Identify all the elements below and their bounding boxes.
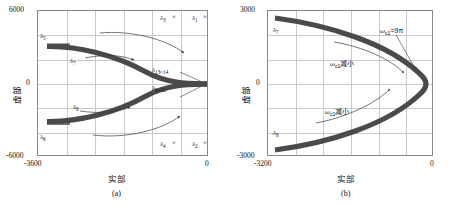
label-lambda-3: λ3 bbox=[160, 14, 166, 23]
ytick-label: 3000 bbox=[240, 5, 255, 14]
xtick-label: -3200 bbox=[254, 159, 272, 168]
xaxis-title-a: 实部 bbox=[108, 172, 126, 184]
eigen-marker-cross: × bbox=[172, 13, 176, 21]
ytick-label: -3000 bbox=[237, 151, 255, 160]
panel-caption-a: (a) bbox=[112, 189, 121, 198]
gridline-h bbox=[38, 35, 207, 36]
label-lambda-9-12: λ9~12 bbox=[152, 84, 166, 93]
ytick-label: 0 bbox=[26, 78, 30, 87]
panel-a: 6000 0 -6000 -3600 0 虚部 实部 (a) λ5 λ7 λ8 … bbox=[0, 0, 226, 206]
plot-area-a bbox=[37, 10, 208, 156]
gridline-h bbox=[38, 108, 207, 109]
gridline-h bbox=[38, 84, 207, 85]
label-lambda-4: λ4 bbox=[160, 140, 166, 149]
gridline-h bbox=[38, 60, 207, 61]
gridlines-b bbox=[268, 11, 432, 155]
ytick-label: 6000 bbox=[9, 5, 24, 14]
yaxis-title-b: 虚部 bbox=[239, 86, 251, 104]
label-lambda-5: λ5 bbox=[40, 32, 46, 41]
eigen-marker-cross: × bbox=[203, 13, 207, 21]
gridline-h bbox=[38, 133, 207, 134]
label-lambda-7: λ7 bbox=[273, 26, 279, 35]
xaxis-title-b: 实部 bbox=[337, 172, 355, 184]
label-lambda-6: λ6 bbox=[40, 133, 46, 142]
label-lambda-7: λ7 bbox=[70, 57, 76, 66]
yaxis-title-a: 虚部 bbox=[10, 86, 22, 104]
label-lambda-8: λ8 bbox=[73, 103, 79, 112]
annotation-omega-c1-decrease-lower: ωc1减小 bbox=[325, 106, 349, 117]
xtick-label: 0 bbox=[205, 159, 209, 168]
ytick-label: -6000 bbox=[6, 151, 24, 160]
gridline-h bbox=[268, 35, 432, 36]
eigen-marker-cross: × bbox=[172, 139, 176, 147]
plot-area-b bbox=[267, 10, 433, 156]
label-lambda-1: λ1 bbox=[192, 14, 198, 23]
annotation-omega-c1-equals-9pi: ωc1=9π bbox=[380, 27, 403, 36]
figure-root-locus-pair: 6000 0 -6000 -3600 0 虚部 实部 (a) λ5 λ7 λ8 … bbox=[0, 0, 451, 206]
gridline-h bbox=[268, 84, 432, 85]
eigen-marker-cross: × bbox=[203, 139, 207, 147]
label-lambda-2: λ2 bbox=[192, 140, 198, 149]
ytick-label: 0 bbox=[256, 78, 260, 87]
xtick-label: -3600 bbox=[24, 159, 42, 168]
panel-caption-b: (b) bbox=[341, 189, 350, 198]
label-lambda-8: λ8 bbox=[273, 129, 279, 138]
panel-b: 3000 0 -3000 -3200 0 虚部 实部 (b) λ7 λ8 ωc1… bbox=[225, 0, 451, 206]
xtick-label: 0 bbox=[430, 159, 434, 168]
gridline-h bbox=[268, 108, 432, 109]
label-lambda-13-14: λ13~14 bbox=[152, 66, 168, 75]
annotation-omega-c1-decrease-upper: ωc1减小 bbox=[330, 58, 354, 69]
gridline-h bbox=[268, 133, 432, 134]
gridlines-a bbox=[38, 11, 207, 155]
